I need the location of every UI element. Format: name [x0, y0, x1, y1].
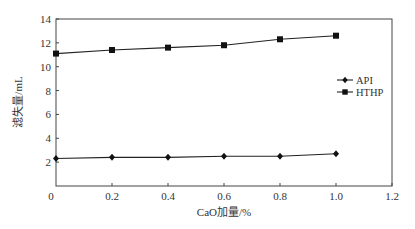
legend-label: API: [356, 75, 373, 86]
y-tick-label: 8: [46, 85, 52, 97]
square-marker-icon: [109, 47, 115, 53]
square-marker-icon: [53, 51, 59, 57]
legend-item-hthp: HTHP: [337, 87, 384, 98]
legend-label: HTHP: [356, 87, 384, 98]
diamond-marker-icon: [333, 150, 339, 157]
line-chart: 246810121400.20.40.60.81.01.2 APIHTHP Ca…: [0, 0, 415, 229]
diamond-marker-icon: [165, 154, 171, 161]
square-marker-icon: [342, 89, 347, 94]
square-marker-icon: [333, 33, 339, 39]
diamond-marker-icon: [277, 153, 283, 160]
series-line: [56, 154, 336, 159]
legend-item-api: API: [337, 75, 373, 86]
x-tick-label: 1.0: [329, 190, 343, 202]
series-group: [53, 33, 339, 162]
plot-area: 246810121400.20.40.60.81.01.2: [40, 13, 399, 202]
square-marker-icon: [277, 36, 283, 42]
square-marker-icon: [165, 45, 171, 51]
x-tick-label: 0.8: [273, 190, 287, 202]
series-line: [56, 36, 336, 54]
y-tick-label: 10: [40, 61, 52, 73]
diamond-marker-icon: [53, 155, 59, 162]
y-tick-label: 4: [46, 132, 52, 144]
diamond-marker-icon: [221, 153, 227, 160]
x-tick-label: 0: [48, 190, 54, 202]
diamond-marker-icon: [342, 77, 347, 83]
square-marker-icon: [221, 42, 227, 48]
x-axis-label: CaO加量/%: [197, 206, 251, 218]
y-tick-label: 12: [40, 37, 51, 49]
y-tick-label: 14: [40, 13, 52, 25]
legend: APIHTHP: [337, 75, 384, 98]
y-tick-label: 2: [46, 156, 52, 168]
series-api: [53, 150, 339, 162]
x-tick-label: 0.2: [105, 190, 119, 202]
diamond-marker-icon: [109, 154, 115, 161]
series-hthp: [53, 33, 339, 57]
y-tick-label: 6: [46, 108, 52, 120]
x-tick-label: 1.2: [385, 190, 399, 202]
x-tick-label: 0.4: [161, 190, 175, 202]
x-tick-label: 0.6: [217, 190, 231, 202]
y-axis-label: 滤失量/mL: [12, 76, 24, 128]
